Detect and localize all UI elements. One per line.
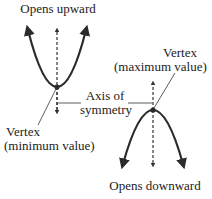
opens-upward-label: Opens upward <box>20 2 96 16</box>
vertex-min-label-line2: (minimum value) <box>4 139 95 153</box>
vertex-min-point <box>54 84 59 89</box>
vertex-max-point <box>150 107 155 112</box>
upward-parabola <box>28 30 86 125</box>
axis-label-line1: Axis of <box>80 89 130 103</box>
vertex-max-leader <box>154 73 175 108</box>
vertex-min-label-line1: Vertex <box>6 125 40 139</box>
downward-parabola <box>123 73 183 165</box>
vertex-min-leader <box>38 89 56 125</box>
vertex-max-label-line2: (maximum value) <box>114 60 207 74</box>
vertex-max-label-line1: Vertex <box>163 46 197 60</box>
axis-label-line2: symmetry <box>80 103 130 117</box>
opens-downward-label: Opens downward <box>108 179 202 193</box>
